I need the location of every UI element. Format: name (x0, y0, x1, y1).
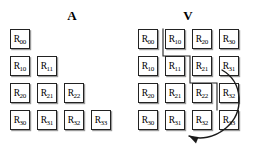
matrix-cell-label: R33 (220, 111, 238, 129)
matrix-cell-label: R21 (38, 84, 56, 102)
matrix-cell: R10 (138, 56, 158, 76)
matrix-cell-subscript: 20 (147, 92, 153, 100)
matrix-cell: R11 (37, 56, 57, 76)
matrix-cell: R20 (138, 83, 158, 103)
matrix-cell: R20 (10, 83, 30, 103)
matrix-cell-label: R31 (220, 57, 238, 75)
matrix-cell-label: R10 (166, 30, 184, 48)
matrix-cell: R31 (37, 110, 57, 130)
matrix-cell-subscript: 11 (175, 65, 181, 73)
matrix-cell-label: R32 (65, 111, 83, 129)
matrix-cell-subscript: 32 (201, 119, 207, 127)
matrix-cell-subscript: 21 (46, 92, 52, 100)
matrix-cell-label: R20 (139, 84, 157, 102)
matrix-cell: R10 (10, 56, 30, 76)
matrix-cell: R21 (37, 83, 57, 103)
matrix-cell-label: R31 (38, 111, 56, 129)
matrix-cell-subscript: 22 (201, 92, 207, 100)
matrix-cell: R32 (64, 110, 84, 130)
matrix-cell-label: R31 (166, 111, 184, 129)
matrix-cell-subscript: 33 (228, 119, 234, 127)
matrix-cell-subscript: 31 (46, 119, 52, 127)
matrix-cell-subscript: 00 (19, 38, 25, 46)
matrix-cell: R33 (91, 110, 111, 130)
matrix-cell-label: R11 (38, 57, 56, 75)
matrix-cell-subscript: 00 (147, 38, 153, 46)
matrix-cell-subscript: 32 (73, 119, 79, 127)
panel-title-a: A (62, 9, 82, 22)
matrix-cell: R20 (192, 29, 212, 49)
matrix-cell-subscript: 20 (19, 92, 25, 100)
matrix-cell-subscript: 10 (19, 65, 25, 73)
matrix-cell: R31 (165, 110, 185, 130)
matrix-cell: R30 (10, 110, 30, 130)
matrix-cell: R22 (192, 83, 212, 103)
matrix-cell-subscript: 31 (228, 65, 234, 73)
matrix-cell-label: R00 (139, 30, 157, 48)
matrix-cell: R00 (10, 29, 30, 49)
matrix-cell: R10 (165, 29, 185, 49)
matrix-cell-label: R00 (11, 30, 29, 48)
matrix-cell-label: R20 (193, 30, 211, 48)
matrix-cell: R31 (219, 56, 239, 76)
matrix-cell-subscript: 22 (73, 92, 79, 100)
panel-title-v: V (178, 9, 198, 22)
matrix-cell-subscript: 10 (174, 38, 180, 46)
matrix-cell-label: R30 (220, 30, 238, 48)
matrix-cell: R30 (219, 29, 239, 49)
matrix-cell-subscript: 10 (147, 65, 153, 73)
matrix-cell-subscript: 30 (228, 38, 234, 46)
matrix-cell-label: R22 (65, 84, 83, 102)
matrix-cell-subscript: 30 (19, 119, 25, 127)
matrix-cell-subscript: 11 (47, 65, 53, 73)
matrix-cell-subscript: 33 (100, 119, 106, 127)
matrix-cell-label: R21 (166, 84, 184, 102)
matrix-cell-subscript: 21 (174, 92, 180, 100)
matrix-cell-label: R30 (139, 111, 157, 129)
packed-storage-figure: A V R00R10R11R20R21R22R30R31R32R33 R00R1… (0, 0, 262, 153)
matrix-cell-subscript: 32 (228, 92, 234, 100)
matrix-cell-label: R11 (166, 57, 184, 75)
matrix-cell-subscript: 30 (147, 119, 153, 127)
matrix-cell-label: R30 (11, 111, 29, 129)
matrix-cell: R30 (138, 110, 158, 130)
matrix-cell: R32 (219, 83, 239, 103)
matrix-cell-subscript: 21 (201, 65, 207, 73)
matrix-cell: R21 (165, 83, 185, 103)
matrix-cell-label: R10 (139, 57, 157, 75)
wrap-arrow-head-icon (189, 136, 199, 144)
matrix-cell: R33 (219, 110, 239, 130)
matrix-cell-label: R32 (193, 111, 211, 129)
matrix-cell: R22 (64, 83, 84, 103)
matrix-cell-label: R20 (11, 84, 29, 102)
matrix-cell-label: R33 (92, 111, 110, 129)
matrix-cell-label: R22 (193, 84, 211, 102)
matrix-cell-label: R10 (11, 57, 29, 75)
matrix-cell-label: R32 (220, 84, 238, 102)
matrix-cell-label: R21 (193, 57, 211, 75)
matrix-cell: R32 (192, 110, 212, 130)
matrix-cell: R21 (192, 56, 212, 76)
matrix-cell-subscript: 20 (201, 38, 207, 46)
matrix-cell-subscript: 31 (174, 119, 180, 127)
matrix-cell: R00 (138, 29, 158, 49)
figure-overlay (0, 0, 262, 153)
matrix-cell: R11 (165, 56, 185, 76)
